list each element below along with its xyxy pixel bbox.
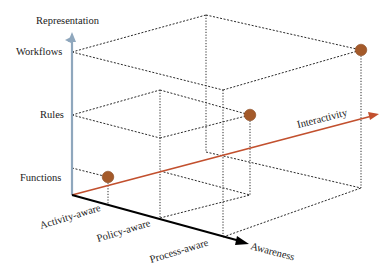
level-label-activity-aware: Activity-aware: [38, 202, 102, 231]
level-label-rules: Rules: [40, 109, 64, 120]
representation-awareness-interactivity-diagram: Representation Workflows Rules Functions…: [0, 0, 392, 279]
point-workflows-process-aware: [355, 44, 367, 56]
level-label-process-aware: Process-aware: [148, 237, 210, 265]
interactivity-axis: [72, 116, 372, 195]
level-label-workflows: Workflows: [16, 46, 62, 57]
representation-axis-arrowhead: [68, 32, 76, 42]
awareness-axis-arrowhead: [235, 236, 249, 245]
point-rules-policy-aware: [244, 109, 256, 121]
rules-box-gridlines: [72, 90, 250, 218]
representation-axis-title: Representation: [36, 15, 100, 26]
point-functions-activity-aware: [102, 171, 114, 183]
interactivity-axis-title: Interactivity: [296, 107, 349, 130]
interactivity-axis-arrowhead: [368, 112, 379, 120]
awareness-axis-title: Awareness: [249, 240, 295, 262]
level-label-policy-aware: Policy-aware: [95, 217, 152, 244]
level-label-functions: Functions: [20, 172, 61, 183]
